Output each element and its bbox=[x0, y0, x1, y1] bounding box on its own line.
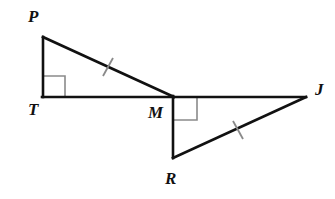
vertex-label-T: T bbox=[28, 101, 38, 118]
vertex-label-R: R bbox=[165, 170, 176, 187]
right-angle-M-icon bbox=[174, 98, 197, 120]
vertex-label-J: J bbox=[315, 81, 324, 98]
vertex-label-M: M bbox=[148, 104, 163, 121]
right-angle-T-icon bbox=[44, 76, 65, 97]
geometry-diagram: P T M R J bbox=[0, 0, 335, 199]
segment-RJ bbox=[173, 97, 306, 158]
vertex-label-P: P bbox=[28, 8, 38, 25]
